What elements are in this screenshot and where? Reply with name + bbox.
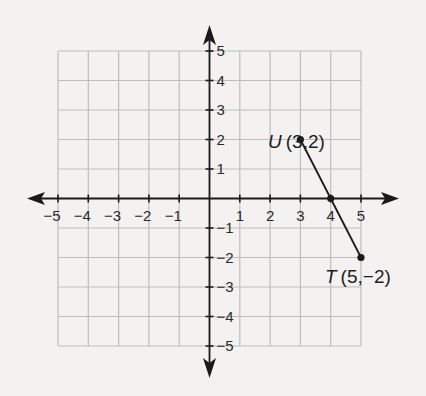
x-tick-label: −3 [104,207,121,224]
x-tick-label: 1 [236,207,244,224]
point-T-label: T(5,−2) [325,266,391,287]
y-tick-label: 1 [217,160,225,177]
x-tick-label: 4 [327,207,335,224]
x-tick-label: −1 [165,207,182,224]
x-tick-label: 5 [357,207,365,224]
y-tick-label: −4 [217,308,234,325]
point-U-label: U(3,2) [268,131,325,152]
y-tick-label: −3 [217,278,234,295]
y-tick-label: 5 [217,42,225,59]
x-tick-label: 2 [266,207,274,224]
y-tick-label: −2 [217,249,234,266]
axes [27,25,399,378]
x-tick-label: −2 [134,207,151,224]
coordinate-plane: −5−4−3−2−11234554321−1−2−3−4−5 U(3,2) T(… [0,0,426,396]
y-tick-label: −5 [217,337,234,354]
x-tick-label: 3 [296,207,304,224]
y-tick-label: 3 [217,101,225,118]
point-dot [327,195,334,202]
y-tick-label: 2 [217,131,225,148]
y-tick-label: −1 [217,219,234,236]
x-tick-label: −4 [74,207,91,224]
y-tick-label: 4 [217,72,225,89]
point-dot [357,254,364,261]
x-tick-label: −5 [43,207,60,224]
